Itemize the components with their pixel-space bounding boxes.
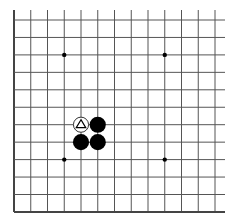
intersection-8-4[interactable] — [140, 81, 157, 98]
intersection-6-4[interactable] — [106, 81, 123, 98]
intersection-11-10[interactable] — [190, 186, 207, 203]
intersection-10-6[interactable] — [173, 116, 190, 133]
intersection-12-10[interactable] — [207, 186, 224, 203]
intersection-11-4[interactable] — [190, 81, 207, 98]
intersection-7-8[interactable] — [123, 151, 140, 168]
intersection-7-7[interactable] — [123, 133, 140, 150]
intersection-11-11[interactable] — [190, 203, 207, 220]
intersection-2-3[interactable] — [39, 64, 56, 81]
intersection-9-7[interactable] — [156, 133, 173, 150]
intersection-6-10[interactable] — [106, 186, 123, 203]
intersection-12-5[interactable] — [207, 99, 224, 116]
intersection-3-6[interactable] — [56, 116, 73, 133]
intersection-1-1[interactable] — [22, 29, 39, 46]
intersection-9-6[interactable] — [156, 116, 173, 133]
intersection-4-3[interactable] — [73, 64, 90, 81]
intersection-8-5[interactable] — [140, 99, 157, 116]
intersection-1-2[interactable] — [22, 46, 39, 63]
intersection-7-3[interactable] — [123, 64, 140, 81]
intersection-4-11[interactable] — [73, 203, 90, 220]
intersection-9-11[interactable] — [156, 203, 173, 220]
intersection-7-10[interactable] — [123, 186, 140, 203]
intersection-4-6[interactable] — [73, 116, 90, 133]
intersection-7-1[interactable] — [123, 29, 140, 46]
intersection-1-11[interactable] — [22, 203, 39, 220]
intersection-0-6[interactable] — [6, 116, 23, 133]
intersection-10-2[interactable] — [173, 46, 190, 63]
intersection-2-9[interactable] — [39, 168, 56, 185]
intersection-3-11[interactable] — [56, 203, 73, 220]
intersection-2-1[interactable] — [39, 29, 56, 46]
intersection-6-9[interactable] — [106, 168, 123, 185]
intersection-5-7[interactable] — [89, 133, 106, 150]
intersection-5-1[interactable] — [89, 29, 106, 46]
intersection-1-5[interactable] — [22, 99, 39, 116]
intersection-1-4[interactable] — [22, 81, 39, 98]
intersection-10-11[interactable] — [173, 203, 190, 220]
intersection-3-8[interactable] — [56, 151, 73, 168]
intersection-8-6[interactable] — [140, 116, 157, 133]
intersection-12-4[interactable] — [207, 81, 224, 98]
intersection-7-5[interactable] — [123, 99, 140, 116]
intersection-3-2[interactable] — [56, 46, 73, 63]
intersection-2-6[interactable] — [39, 116, 56, 133]
intersection-12-2[interactable] — [207, 46, 224, 63]
intersection-9-0[interactable] — [156, 11, 173, 28]
intersection-12-11[interactable] — [207, 203, 224, 220]
intersection-10-8[interactable] — [173, 151, 190, 168]
intersection-8-7[interactable] — [140, 133, 157, 150]
intersection-6-8[interactable] — [106, 151, 123, 168]
intersection-9-1[interactable] — [156, 29, 173, 46]
intersection-6-5[interactable] — [106, 99, 123, 116]
intersection-4-5[interactable] — [73, 99, 90, 116]
intersection-4-2[interactable] — [73, 46, 90, 63]
intersection-0-9[interactable] — [6, 168, 23, 185]
intersection-12-0[interactable] — [207, 11, 224, 28]
intersection-12-3[interactable] — [207, 64, 224, 81]
intersection-11-5[interactable] — [190, 99, 207, 116]
intersection-0-1[interactable] — [6, 29, 23, 46]
intersection-0-7[interactable] — [6, 133, 23, 150]
go-board[interactable] — [0, 0, 236, 224]
intersection-7-4[interactable] — [123, 81, 140, 98]
intersection-10-7[interactable] — [173, 133, 190, 150]
intersection-4-7[interactable] — [73, 133, 90, 150]
intersection-1-7[interactable] — [22, 133, 39, 150]
intersection-6-6[interactable] — [106, 116, 123, 133]
intersection-0-8[interactable] — [6, 151, 23, 168]
intersection-12-1[interactable] — [207, 29, 224, 46]
intersection-6-7[interactable] — [106, 133, 123, 150]
intersection-6-0[interactable] — [106, 11, 123, 28]
intersection-9-10[interactable] — [156, 186, 173, 203]
intersection-2-5[interactable] — [39, 99, 56, 116]
intersection-9-8[interactable] — [156, 151, 173, 168]
intersection-0-11[interactable] — [6, 203, 23, 220]
intersection-3-1[interactable] — [56, 29, 73, 46]
intersection-8-8[interactable] — [140, 151, 157, 168]
intersection-4-9[interactable] — [73, 168, 90, 185]
intersection-3-10[interactable] — [56, 186, 73, 203]
intersection-6-1[interactable] — [106, 29, 123, 46]
intersection-3-4[interactable] — [56, 81, 73, 98]
intersection-2-0[interactable] — [39, 11, 56, 28]
intersection-4-8[interactable] — [73, 151, 90, 168]
intersection-5-4[interactable] — [89, 81, 106, 98]
intersection-11-7[interactable] — [190, 133, 207, 150]
intersection-5-2[interactable] — [89, 46, 106, 63]
intersection-5-6[interactable] — [89, 116, 106, 133]
intersection-5-0[interactable] — [89, 11, 106, 28]
intersection-1-6[interactable] — [22, 116, 39, 133]
intersection-9-3[interactable] — [156, 64, 173, 81]
intersection-2-8[interactable] — [39, 151, 56, 168]
intersection-9-2[interactable] — [156, 46, 173, 63]
intersection-5-11[interactable] — [89, 203, 106, 220]
intersection-2-11[interactable] — [39, 203, 56, 220]
intersection-6-2[interactable] — [106, 46, 123, 63]
intersection-0-0[interactable] — [6, 11, 23, 28]
intersection-9-9[interactable] — [156, 168, 173, 185]
intersection-4-4[interactable] — [73, 81, 90, 98]
intersection-3-0[interactable] — [56, 11, 73, 28]
intersection-7-0[interactable] — [123, 11, 140, 28]
intersection-1-9[interactable] — [22, 168, 39, 185]
intersection-11-9[interactable] — [190, 168, 207, 185]
